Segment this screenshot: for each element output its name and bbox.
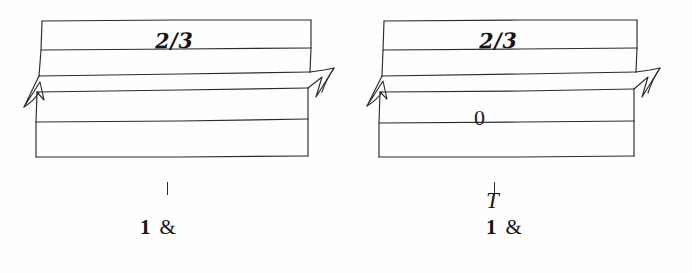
left-break-symbol xyxy=(367,76,387,106)
lower-mid-rule xyxy=(379,121,634,123)
upper-top-edge xyxy=(42,20,311,21)
left-figure-band-label-0: 2/3 xyxy=(155,28,194,54)
lower-left-edge xyxy=(36,92,37,157)
right-figure-line-art xyxy=(346,0,692,200)
lower-bottom-edge xyxy=(36,156,308,157)
right-figure: 2/3 0 T 1& xyxy=(346,0,692,273)
left-caption-tick-icon xyxy=(167,182,168,195)
lower-left-edge xyxy=(379,92,380,157)
upper-top-edge xyxy=(384,20,637,21)
right-figure-band-label-1: 0 xyxy=(474,105,485,131)
lower-top-edge xyxy=(37,88,308,92)
upper-bottom-edge xyxy=(39,72,310,76)
upper-left-edge xyxy=(382,21,384,76)
left-caption-line: 1& xyxy=(140,215,176,240)
upper-bottom-edge xyxy=(382,72,636,76)
lower-mid-rule xyxy=(36,119,308,122)
left-caption-ampersand: & xyxy=(151,215,176,239)
lower-bottom-edge xyxy=(379,156,634,157)
right-caption-letter: T xyxy=(486,188,499,214)
scanned-page: 2/3 1& xyxy=(0,0,692,273)
left-caption-number: 1 xyxy=(140,215,151,239)
right-break-symbol xyxy=(634,68,660,97)
right-figure-band-label-0: 2/3 xyxy=(479,28,518,54)
upper-right-edge xyxy=(636,20,637,72)
right-break-symbol xyxy=(308,68,334,97)
right-caption-ampersand: & xyxy=(497,215,522,239)
right-caption-line: 1& xyxy=(486,215,522,240)
upper-right-edge xyxy=(310,20,311,72)
right-break-tail xyxy=(648,68,660,93)
right-caption-number: 1 xyxy=(486,215,497,239)
left-figure: 2/3 1& xyxy=(0,0,346,273)
right-break-tail xyxy=(322,68,334,92)
upper-left-edge xyxy=(39,21,42,76)
lower-top-edge xyxy=(380,89,634,92)
